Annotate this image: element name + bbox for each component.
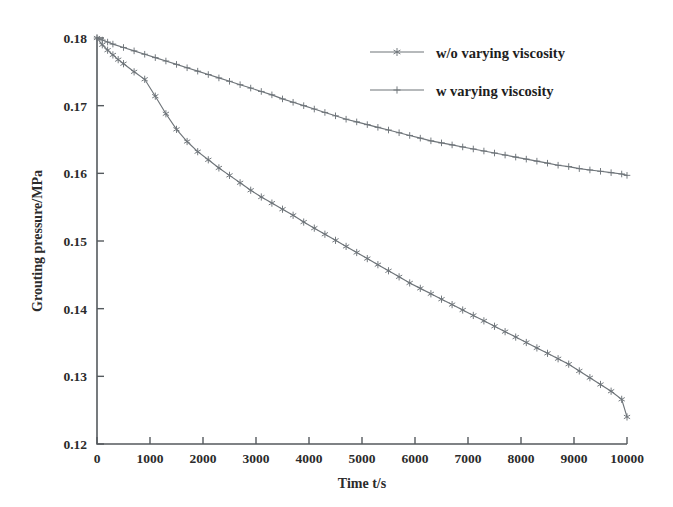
series-marker-0: [470, 312, 476, 319]
x-tick-label: 4000: [296, 451, 323, 466]
series-marker-1: [597, 168, 604, 175]
series-marker-0: [619, 396, 625, 403]
series-marker-1: [565, 163, 572, 170]
series-marker-0: [248, 187, 254, 194]
series-marker-0: [608, 388, 614, 395]
series-marker-0: [226, 172, 232, 179]
series-marker-1: [216, 75, 223, 82]
series-marker-0: [364, 255, 370, 262]
series-marker-0: [131, 68, 137, 75]
series-marker-0: [428, 290, 434, 297]
y-tick-label: 0.17: [63, 99, 87, 114]
figure-container: 0.120.130.140.150.160.170.18010002000300…: [0, 0, 673, 507]
x-tick-label: 2000: [190, 451, 217, 466]
series-marker-0: [216, 164, 222, 171]
x-tick-label: 8000: [508, 451, 535, 466]
y-tick-label: 0.15: [63, 234, 87, 249]
x-axis-title: Time t/s: [338, 476, 387, 491]
series-marker-1: [491, 150, 498, 157]
chart-svg: 0.120.130.140.150.160.170.18010002000300…: [0, 0, 673, 507]
series-marker-0: [269, 200, 275, 207]
x-tick-label: 3000: [243, 451, 270, 466]
x-tick-label: 9000: [561, 451, 588, 466]
series-marker-0: [417, 285, 423, 292]
series-marker-1: [247, 85, 254, 92]
series-marker-1: [131, 48, 138, 55]
series-marker-0: [624, 413, 630, 420]
series-marker-1: [624, 172, 631, 179]
series-marker-1: [311, 106, 318, 113]
series-marker-1: [279, 96, 286, 103]
series-marker-0: [354, 249, 360, 256]
y-tick-label: 0.12: [63, 437, 87, 452]
series-marker-1: [375, 124, 382, 131]
series-marker-0: [449, 301, 455, 308]
series-marker-0: [205, 156, 211, 163]
series-marker-1: [618, 171, 625, 178]
series-marker-0: [502, 328, 508, 335]
y-tick-label: 0.14: [63, 302, 87, 317]
x-tick-label: 0: [94, 451, 101, 466]
x-tick-label: 10000: [610, 451, 644, 466]
series-marker-1: [406, 132, 413, 139]
series-marker-0: [576, 367, 582, 374]
series-marker-0: [587, 374, 593, 381]
series-marker-0: [523, 339, 529, 346]
series-marker-1: [258, 88, 265, 95]
series-marker-1: [322, 109, 329, 116]
series-marker-0: [237, 179, 243, 186]
series-marker-1: [194, 68, 201, 75]
series-marker-0: [385, 267, 391, 274]
series-marker-1: [396, 129, 403, 136]
x-tick-label: 6000: [402, 451, 429, 466]
series-marker-1: [608, 169, 615, 176]
series-marker-1: [163, 58, 170, 65]
x-tick-label: 7000: [455, 451, 482, 466]
series-marker-0: [481, 317, 487, 324]
series-marker-0: [332, 237, 338, 244]
series-marker-1: [205, 71, 212, 78]
series-marker-0: [555, 355, 561, 362]
series-marker-1: [269, 92, 276, 99]
series-marker-1: [290, 99, 297, 106]
series-marker-1: [173, 61, 180, 68]
series-marker-1: [523, 156, 530, 163]
series-marker-1: [141, 51, 148, 58]
series-marker-1: [470, 146, 477, 153]
series-marker-0: [375, 261, 381, 268]
series-marker-1: [300, 102, 307, 109]
series-marker-0: [396, 273, 402, 280]
series-marker-0: [301, 218, 307, 225]
series-marker-1: [152, 54, 159, 61]
series-marker-1: [332, 113, 339, 120]
series-marker-1: [534, 158, 541, 165]
series-marker-1: [353, 119, 360, 126]
series-marker-1: [587, 167, 594, 174]
series-marker-1: [184, 64, 191, 71]
series-marker-1: [576, 165, 583, 172]
series-marker-1: [481, 148, 488, 155]
x-tick-label: 1000: [137, 451, 164, 466]
series-marker-0: [566, 361, 572, 368]
y-tick-label: 0.13: [63, 369, 87, 384]
series-marker-1: [120, 44, 127, 51]
legend-marker-1: [393, 86, 400, 93]
series-marker-0: [311, 225, 317, 232]
series-marker-1: [544, 160, 551, 167]
series-marker-0: [407, 279, 413, 286]
x-tick-label: 5000: [349, 451, 376, 466]
series-marker-0: [544, 350, 550, 357]
legend-label-1: w varying viscosity: [436, 83, 554, 99]
series-marker-1: [428, 138, 435, 145]
y-axis-title: Grouting pressure/MPa: [30, 170, 45, 312]
series-marker-1: [512, 154, 519, 161]
series-marker-0: [460, 306, 466, 313]
series-marker-0: [322, 231, 328, 238]
series-marker-1: [343, 116, 350, 123]
y-tick-label: 0.18: [63, 31, 87, 46]
series-marker-0: [290, 212, 296, 219]
y-tick-label: 0.16: [63, 166, 87, 181]
series-marker-1: [417, 135, 424, 142]
series-marker-0: [258, 193, 264, 200]
series-marker-0: [534, 344, 540, 351]
